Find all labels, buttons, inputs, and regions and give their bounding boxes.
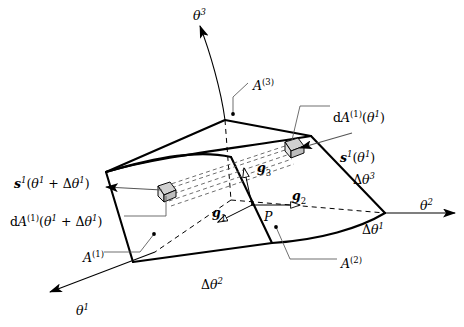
increment-label-dtheta1: Δθ1 [362, 222, 384, 237]
axis-label-theta2: θ2 [420, 198, 433, 213]
basis-vector-label-g2: g2 [292, 190, 306, 205]
leader-lines [104, 83, 337, 259]
axis-theta3 [200, 26, 225, 120]
traction-arrow-left [106, 187, 162, 190]
axis-label-theta3: θ3 [193, 8, 206, 23]
surface-label-A2: A(2) [341, 256, 362, 271]
point-label-P: P [264, 211, 272, 224]
increment-label-dtheta2: Δθ2 [201, 277, 223, 292]
diagram-canvas [0, 0, 464, 327]
traction-label-s1-theta1: s1(θ1) [340, 150, 375, 165]
area-element-patch-left [158, 182, 176, 202]
area-element-label-dA1-theta1-plus-dtheta1: dA(1)(θ1 + Δθ1) [10, 214, 102, 229]
hidden-edges [155, 120, 385, 252]
surface-label-A3: A(3) [253, 78, 274, 93]
curvilinear-control-volume-figure: θ3 θ2 θ1 A(3) A(1) A(2) Δθ3 Δθ1 Δθ2 g1 g… [0, 0, 464, 327]
traction-label-s1-theta1-plus-dtheta1: s1(θ1 + Δθ1) [14, 176, 90, 191]
control-volume-body [106, 120, 385, 262]
area-element-label-dA1-theta1: dA(1)(θ1) [333, 110, 385, 125]
axis-label-theta1: θ1 [76, 303, 89, 318]
basis-vector-label-g3: g3 [257, 162, 271, 177]
basis-vector-label-g1: g1 [212, 207, 226, 222]
surface-label-A1: A(1) [83, 250, 104, 265]
increment-label-dtheta3: Δθ3 [353, 172, 375, 187]
